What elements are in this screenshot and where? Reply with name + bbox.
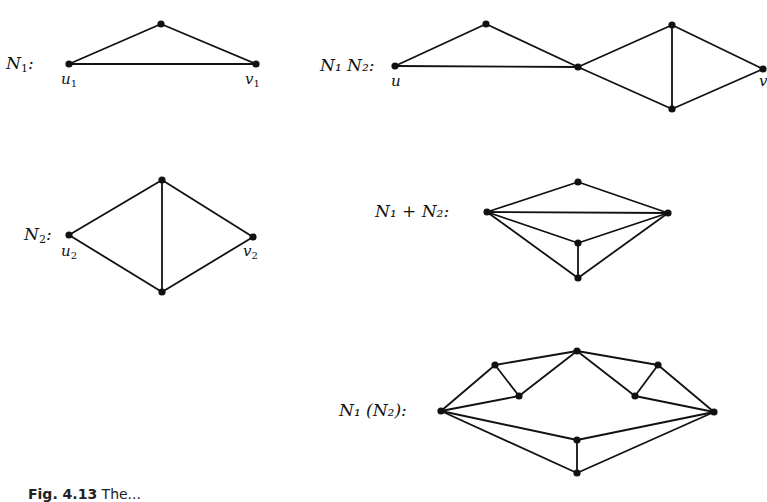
node-N1plusN2: [574, 274, 581, 281]
node-N1plusN2: [574, 239, 581, 246]
label-n1-of-n2: N₁ (N₂):: [339, 402, 407, 419]
terminal-u2: u2: [61, 244, 77, 261]
node-N1N2: [668, 105, 675, 112]
node-N1ofN2: [573, 347, 580, 354]
edge-N1plusN2: [487, 182, 578, 212]
graph-edges: [69, 24, 763, 473]
node-N2: [158, 176, 165, 183]
node-N1N2: [574, 63, 581, 70]
node-N1: [252, 60, 259, 67]
node-N1: [157, 20, 164, 27]
node-N1plusN2: [664, 209, 671, 216]
node-N1ofN2: [491, 361, 498, 368]
node-N1ofN2: [437, 407, 444, 414]
label-n1: N1:: [6, 55, 34, 74]
terminal-v1: v1: [245, 72, 260, 89]
edge-N1ofN2: [577, 412, 714, 440]
node-N1N2: [391, 62, 398, 69]
edge-N2: [69, 235, 162, 292]
graph-nodes: [65, 20, 766, 476]
edge-N2: [69, 180, 162, 235]
node-N1ofN2: [654, 361, 661, 368]
edge-N1N2: [486, 24, 578, 67]
edge-N1N2: [578, 25, 672, 67]
edge-N1: [161, 24, 256, 64]
node-N1ofN2: [710, 408, 717, 415]
edge-N1ofN2: [635, 396, 714, 412]
figure-caption: Fig. 4.13 The...: [28, 486, 141, 502]
node-N1: [65, 60, 72, 67]
node-N1N2: [482, 20, 489, 27]
node-N1ofN2: [573, 436, 580, 443]
edge-N1plusN2: [578, 213, 668, 278]
edge-N1ofN2: [658, 365, 714, 412]
edge-N1ofN2: [495, 365, 519, 396]
edge-N1ofN2: [495, 351, 577, 365]
terminal-u: u: [391, 74, 401, 89]
node-N2: [249, 233, 256, 240]
edge-N1N2: [672, 25, 763, 69]
node-N1ofN2: [573, 469, 580, 476]
label-n1-plus-n2: N₁ + N₂:: [375, 203, 449, 220]
node-N1ofN2: [515, 392, 522, 399]
edge-N1plusN2: [487, 212, 668, 213]
edge-N1ofN2: [441, 365, 495, 411]
node-N1N2: [668, 21, 675, 28]
edge-N1ofN2: [635, 365, 658, 396]
node-N2: [65, 231, 72, 238]
edge-N1N2: [395, 66, 578, 67]
edge-N1ofN2: [577, 351, 658, 365]
edge-N1N2: [672, 69, 763, 109]
edge-N1plusN2: [487, 212, 578, 278]
edge-N1plusN2: [578, 182, 668, 213]
edge-N1ofN2: [577, 351, 635, 396]
edge-N1N2: [578, 67, 672, 109]
edge-N1: [69, 24, 161, 64]
label-n1-series-n2: N₁ N₂:: [320, 57, 375, 74]
edge-N1plusN2: [487, 212, 578, 243]
edge-N1ofN2: [441, 396, 519, 411]
edge-N1plusN2: [578, 213, 668, 243]
node-N1plusN2: [483, 208, 490, 215]
edge-N1ofN2: [577, 412, 714, 473]
terminal-v: v: [759, 74, 767, 89]
edge-N2: [162, 180, 253, 237]
label-n2: N2:: [24, 226, 52, 245]
edge-N1ofN2: [519, 351, 577, 396]
terminal-u1: u1: [61, 72, 77, 89]
edge-N1ofN2: [441, 411, 577, 473]
edge-N1N2: [395, 24, 486, 66]
node-N2: [158, 288, 165, 295]
node-N1plusN2: [574, 178, 581, 185]
edge-N1ofN2: [441, 411, 577, 440]
terminal-v2: v2: [243, 244, 258, 261]
node-N1ofN2: [631, 392, 638, 399]
edge-N2: [162, 237, 253, 292]
